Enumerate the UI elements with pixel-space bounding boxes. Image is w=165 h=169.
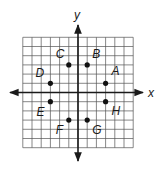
coordinate-plane: xy ABCDEFGH (0, 0, 165, 169)
point-label-g: G (92, 123, 101, 137)
point-label-f: F (56, 123, 64, 137)
point-label-d: D (35, 66, 44, 80)
point-label-a: A (111, 64, 120, 78)
point-e (48, 99, 53, 104)
x-axis-label: x (147, 86, 155, 100)
point-a (103, 81, 108, 86)
point-b (85, 62, 90, 67)
point-f (66, 118, 71, 123)
point-d (48, 81, 53, 86)
y-axis-label: y (73, 8, 81, 22)
point-h (103, 99, 108, 104)
point-label-e: E (36, 105, 45, 119)
point-c (66, 62, 71, 67)
point-label-h: H (112, 104, 121, 118)
point-label-c: C (56, 47, 65, 61)
point-g (85, 118, 90, 123)
point-label-b: B (92, 47, 100, 61)
